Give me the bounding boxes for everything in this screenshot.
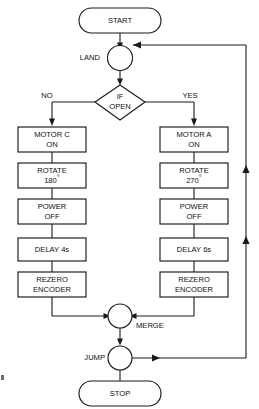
node-right-0-line2: ON bbox=[188, 140, 199, 149]
node-decision-if-open[interactable]: IF OPEN bbox=[95, 85, 145, 120]
node-right-power-off[interactable]: POWER OFF bbox=[160, 199, 228, 224]
node-right-1-line1: ROTATE bbox=[179, 166, 209, 175]
node-right-delay-6s[interactable]: DELAY 6s bbox=[160, 238, 228, 261]
edge-land-to-decision bbox=[117, 70, 123, 86]
node-stop[interactable]: STOP bbox=[79, 381, 161, 406]
node-left-2-line1: POWER bbox=[38, 202, 67, 211]
node-left-0-line1: MOTOR C bbox=[34, 130, 70, 139]
node-left-power-off[interactable]: POWER OFF bbox=[18, 199, 86, 224]
node-left-0-line2: ON bbox=[46, 140, 57, 149]
node-decision-line1: IF bbox=[117, 92, 124, 101]
branch-label-no: NO bbox=[41, 91, 52, 100]
node-jump[interactable] bbox=[108, 346, 132, 370]
node-left-motor-c-on[interactable]: MOTOR C ON bbox=[18, 127, 86, 152]
node-right-2-line2: OFF bbox=[186, 212, 202, 221]
edge-decision-yes bbox=[145, 102, 197, 126]
node-right-0-line1: MOTOR A bbox=[177, 130, 213, 139]
node-land-label: LAND bbox=[80, 53, 101, 62]
node-start-label: START bbox=[108, 16, 133, 25]
node-left-4-line2: ENCODER bbox=[33, 285, 71, 294]
node-right-rotate-270[interactable]: ROTATE 270° bbox=[160, 163, 228, 188]
node-decision-line2: OPEN bbox=[109, 102, 131, 111]
scan-artifact-speck bbox=[1, 375, 4, 380]
node-merge[interactable] bbox=[108, 304, 132, 328]
node-left-1-line1: ROTATE bbox=[37, 166, 67, 175]
edge-merge-to-jump bbox=[117, 328, 123, 346]
node-right-4-line1: REZERO bbox=[178, 275, 210, 284]
node-right-4-line2: ENCODER bbox=[175, 285, 213, 294]
node-left-delay-4s[interactable]: DELAY 4s bbox=[18, 238, 86, 261]
node-jump-label: JUMP bbox=[84, 353, 105, 362]
node-left-3-line1: DELAY 4s bbox=[35, 245, 70, 254]
branch-label-yes: YES bbox=[182, 91, 197, 100]
node-left-rezero-encoder[interactable]: REZERO ENCODER bbox=[18, 272, 86, 297]
edge-right-to-merge bbox=[130, 297, 195, 319]
node-start[interactable]: START bbox=[79, 8, 161, 33]
node-left-4-line1: REZERO bbox=[36, 275, 68, 284]
node-merge-label: MERGE bbox=[136, 321, 164, 330]
edge-decision-no bbox=[49, 102, 95, 126]
node-left-rotate-180[interactable]: ROTATE 180° bbox=[18, 163, 86, 188]
node-right-2-line1: POWER bbox=[180, 202, 209, 211]
node-left-2-line2: OFF bbox=[44, 212, 60, 221]
edge-left-to-merge bbox=[52, 297, 111, 319]
node-land[interactable] bbox=[108, 46, 133, 71]
node-right-motor-a-on[interactable]: MOTOR A ON bbox=[160, 127, 228, 152]
node-stop-label: STOP bbox=[110, 389, 131, 398]
node-right-3-line1: DELAY 6s bbox=[177, 245, 212, 254]
node-right-rezero-encoder[interactable]: REZERO ENCODER bbox=[160, 272, 228, 297]
flowchart-diagram: START LAND IF OPEN NO YES MOTOR C ON ROT… bbox=[0, 0, 259, 409]
